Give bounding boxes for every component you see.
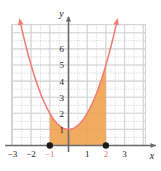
data-point-dot bbox=[103, 142, 109, 148]
x-tick-label: 1 bbox=[85, 149, 90, 159]
y-tick-label: 6 bbox=[60, 44, 65, 54]
parabola-shaded-area-plot: −3−2−1123123456 yx bbox=[0, 0, 161, 171]
y-tick-label: 4 bbox=[60, 77, 65, 87]
curve-arrowhead bbox=[114, 18, 119, 25]
graph-figure: −3−2−1123123456 yx bbox=[0, 0, 161, 171]
x-tick-label: −1 bbox=[45, 149, 55, 159]
x-tick-label: 2 bbox=[104, 149, 109, 159]
y-axis-arrowhead bbox=[66, 16, 71, 22]
data-point-dot bbox=[47, 142, 53, 148]
x-tick-label: −2 bbox=[26, 149, 36, 159]
x-axis-label: x bbox=[149, 150, 155, 161]
x-tick-label: 3 bbox=[122, 149, 127, 159]
x-axis-arrowhead bbox=[151, 143, 157, 148]
y-tick-label: 3 bbox=[60, 93, 65, 103]
y-tick-label: 5 bbox=[60, 60, 65, 70]
y-tick-label: 1 bbox=[60, 125, 65, 135]
curve-arrowhead bbox=[18, 18, 23, 25]
y-tick-label: 2 bbox=[60, 109, 65, 119]
y-axis-label: y bbox=[58, 8, 64, 19]
x-tick-label: −3 bbox=[8, 149, 18, 159]
